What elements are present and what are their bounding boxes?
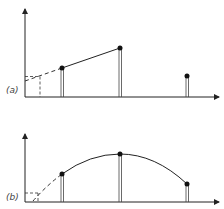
stem-b-1	[61, 174, 64, 202]
stem-a-2	[119, 48, 122, 97]
fit-curve-b	[62, 154, 187, 184]
panel-label-a: (a)	[6, 85, 19, 95]
stem-a-3	[186, 76, 189, 97]
stem-a-1	[61, 68, 64, 97]
panel-label-b: (b)	[6, 192, 19, 202]
sample-point-b-1	[60, 172, 65, 177]
sample-point-b-3	[185, 182, 190, 187]
sample-point-b-2	[118, 152, 123, 157]
stem-b-2	[119, 154, 122, 202]
panel-b: (b)	[6, 134, 219, 202]
sample-point-a-1	[60, 66, 65, 71]
extrapolation-dashed-a	[25, 68, 62, 81]
sample-point-a-2	[118, 46, 123, 51]
panel-a: (a)	[6, 9, 219, 97]
diagram-canvas: (a) (b)	[0, 0, 224, 209]
sample-point-a-3	[185, 74, 190, 79]
stem-b-3	[186, 184, 189, 202]
fit-line-a	[62, 48, 120, 68]
extrapolation-dashed-b	[33, 174, 62, 201]
